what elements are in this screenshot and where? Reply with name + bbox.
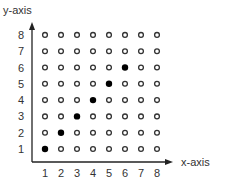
open-point [139, 81, 144, 86]
open-point [59, 49, 64, 54]
x-tick-label: 1 [42, 167, 48, 179]
x-tick-label: 6 [122, 167, 128, 179]
open-point [75, 130, 80, 135]
x-tick-label: 5 [106, 167, 112, 179]
open-point [139, 49, 144, 54]
open-point [139, 65, 144, 70]
open-point [107, 130, 112, 135]
x-tick-label: 8 [154, 167, 160, 179]
open-point [123, 49, 128, 54]
filled-point [122, 64, 128, 70]
open-point [43, 81, 48, 86]
open-point [43, 33, 48, 38]
open-point [107, 98, 112, 103]
y-tick-label: 4 [18, 94, 24, 106]
open-point [59, 114, 64, 119]
open-point [91, 130, 96, 135]
open-point [123, 147, 128, 152]
open-point [43, 98, 48, 103]
x-tick-labels: 12345678 [42, 167, 160, 179]
open-point [91, 65, 96, 70]
open-point [107, 33, 112, 38]
open-point [43, 65, 48, 70]
open-point [155, 98, 160, 103]
open-point [155, 114, 160, 119]
axes [29, 22, 173, 165]
open-point [59, 33, 64, 38]
open-point [155, 147, 160, 152]
open-point [43, 130, 48, 135]
open-point [75, 98, 80, 103]
open-point [43, 114, 48, 119]
open-point [139, 147, 144, 152]
open-point [123, 130, 128, 135]
open-point [139, 98, 144, 103]
y-tick-label: 2 [18, 127, 24, 139]
y-axis-arrow-icon [29, 22, 35, 30]
open-point [75, 49, 80, 54]
open-point [139, 114, 144, 119]
y-axis-label: y-axis [3, 4, 32, 16]
open-point [123, 33, 128, 38]
open-point [123, 81, 128, 86]
open-point [155, 49, 160, 54]
open-point [107, 114, 112, 119]
y-tick-label: 5 [18, 78, 24, 90]
open-point [43, 49, 48, 54]
y-tick-label: 1 [18, 143, 24, 155]
open-point [107, 49, 112, 54]
open-point [107, 65, 112, 70]
filled-point [74, 113, 80, 119]
filled-point [58, 130, 64, 136]
x-tick-label: 7 [138, 167, 144, 179]
open-point [123, 98, 128, 103]
open-point [59, 147, 64, 152]
open-point [91, 114, 96, 119]
open-point [91, 49, 96, 54]
open-point [155, 33, 160, 38]
filled-point [90, 97, 96, 103]
scatter-chart: y-axis x-axis 12345678 12345678 [0, 0, 227, 186]
open-point [155, 130, 160, 135]
open-point [155, 65, 160, 70]
y-tick-label: 6 [18, 62, 24, 74]
open-point [123, 114, 128, 119]
open-point [107, 147, 112, 152]
x-tick-label: 2 [58, 167, 64, 179]
open-point [59, 98, 64, 103]
open-point [75, 81, 80, 86]
open-point [75, 65, 80, 70]
open-point [139, 130, 144, 135]
x-axis-arrow-icon [165, 159, 173, 165]
filled-point [106, 81, 112, 87]
filled-point [42, 146, 48, 152]
x-tick-label: 3 [74, 167, 80, 179]
y-tick-labels: 12345678 [18, 29, 24, 155]
open-point [59, 65, 64, 70]
x-tick-label: 4 [90, 167, 96, 179]
open-point [75, 33, 80, 38]
y-tick-label: 7 [18, 45, 24, 57]
y-tick-label: 3 [18, 110, 24, 122]
open-point [59, 81, 64, 86]
open-point [139, 33, 144, 38]
x-axis-label: x-axis [181, 156, 210, 168]
y-tick-label: 8 [18, 29, 24, 41]
open-point [91, 147, 96, 152]
open-point [155, 81, 160, 86]
data-points [42, 33, 160, 153]
open-point [91, 33, 96, 38]
open-point [91, 81, 96, 86]
open-point [75, 147, 80, 152]
